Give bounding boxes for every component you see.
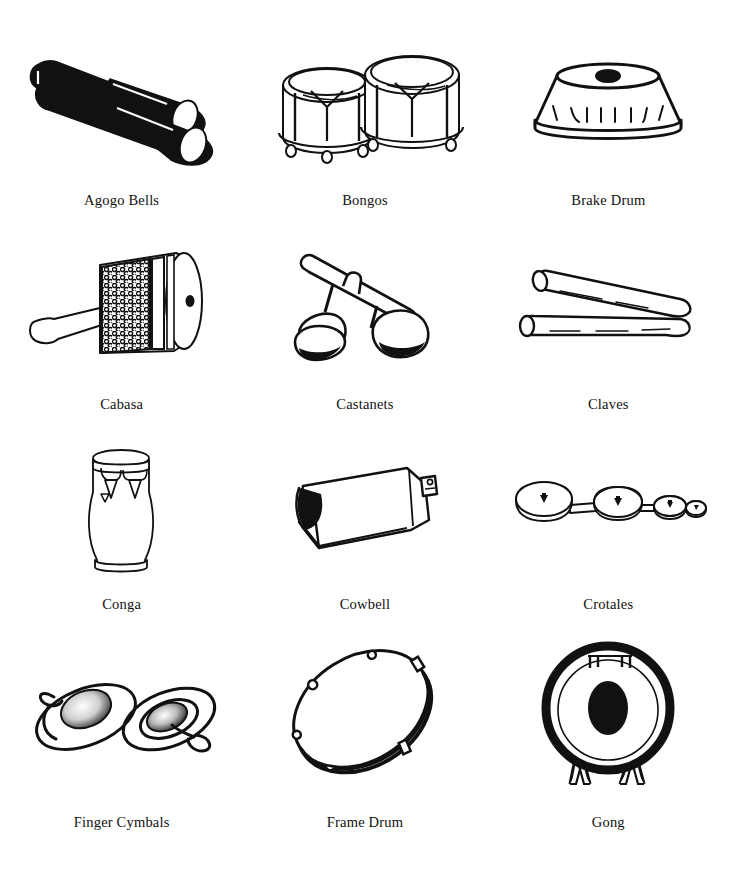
instrument-cell-agogo-bells: Agogo Bells: [0, 14, 243, 219]
instrument-grid: Agogo Bells: [0, 14, 730, 859]
instrument-cell-crotales: Crotales: [487, 419, 730, 619]
instrument-label: Conga: [102, 596, 141, 619]
instrument-cell-brake-drum: Brake Drum: [487, 14, 730, 219]
frame-drum-illustration: [243, 619, 486, 814]
instrument-label: Gong: [592, 814, 625, 859]
instrument-cell-bongos: Bongos: [243, 14, 486, 219]
instrument-label: Bongos: [342, 192, 388, 219]
instrument-cell-finger-cymbals: Finger Cymbals: [0, 619, 243, 859]
instrument-label: Castanets: [336, 396, 393, 419]
percussion-instruments-page: PERCUSSION INSTRUMENTS: [0, 0, 730, 876]
instrument-label: Claves: [588, 396, 629, 419]
cowbell-illustration: [243, 419, 486, 596]
conga-illustration: [0, 419, 243, 596]
castanets-illustration: [243, 219, 486, 396]
crotales-illustration: [487, 419, 730, 596]
instrument-cell-cabasa: Cabasa: [0, 219, 243, 419]
instrument-label: Cowbell: [340, 596, 391, 619]
instrument-label: Agogo Bells: [84, 192, 159, 219]
brake-drum-illustration: [487, 14, 730, 192]
gong-illustration: [487, 619, 730, 814]
bongos-illustration: [243, 14, 486, 192]
instrument-label: Frame Drum: [327, 814, 404, 859]
instrument-cell-castanets: Castanets: [243, 219, 486, 419]
instrument-label: Brake Drum: [571, 192, 645, 219]
instrument-cell-frame-drum: Frame Drum: [243, 619, 486, 859]
instrument-cell-claves: Claves: [487, 219, 730, 419]
instrument-cell-cowbell: Cowbell: [243, 419, 486, 619]
instrument-label: Cabasa: [100, 396, 143, 419]
instrument-label: Crotales: [583, 596, 633, 619]
instrument-label: Finger Cymbals: [74, 814, 170, 859]
cabasa-illustration: [0, 219, 243, 396]
claves-illustration: [487, 219, 730, 396]
agogo-bells-illustration: [0, 14, 243, 192]
instrument-cell-gong: Gong: [487, 619, 730, 859]
finger-cymbals-illustration: [0, 619, 243, 814]
instrument-cell-conga: Conga: [0, 419, 243, 619]
